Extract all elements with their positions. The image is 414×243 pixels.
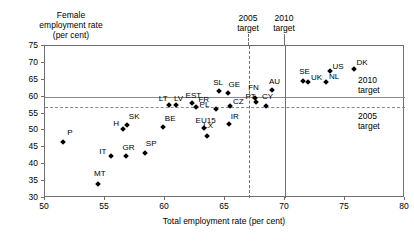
hline-2005-label-line1: 2005 bbox=[358, 111, 377, 121]
data-point-label-BE: BE bbox=[165, 115, 176, 123]
y-tick-label-45: 45 bbox=[22, 141, 38, 151]
hline-2010-label-line1: 2010 bbox=[358, 75, 377, 85]
y-axis-title-line1: Female bbox=[36, 10, 106, 21]
x-axis-title: Total employment rate (per cent) bbox=[144, 216, 304, 226]
data-point-label-GE: GE bbox=[229, 81, 241, 89]
vline-2005-label-line1: 2005 bbox=[231, 13, 265, 23]
data-point-label-NL: NL bbox=[329, 73, 339, 81]
y-tick-label-55: 55 bbox=[22, 108, 38, 118]
x-tick-label-55: 55 bbox=[94, 201, 114, 211]
data-point-label-UK: UK bbox=[311, 74, 322, 82]
x-tick-mark-75 bbox=[344, 197, 345, 200]
reference-line-v-67-extension bbox=[248, 34, 249, 45]
x-tick-label-70: 70 bbox=[274, 201, 294, 211]
data-point-label-SL: SL bbox=[213, 79, 223, 87]
reference-line-v-67 bbox=[249, 46, 250, 198]
y-tick-label-70: 70 bbox=[22, 57, 38, 67]
data-point-label-LX: LX bbox=[203, 122, 213, 130]
y-tick-mark-60 bbox=[41, 96, 44, 97]
data-point-label-P: P bbox=[67, 129, 72, 137]
vline-2010-label-line1: 2010 bbox=[267, 13, 301, 23]
y-tick-label-75: 75 bbox=[22, 40, 38, 50]
x-tick-mark-55 bbox=[104, 197, 105, 200]
data-point-label-DK: DK bbox=[357, 59, 368, 67]
y-tick-mark-55 bbox=[41, 113, 44, 114]
x-tick-mark-70 bbox=[284, 197, 285, 200]
y-tick-label-35: 35 bbox=[22, 175, 38, 185]
y-tick-mark-70 bbox=[41, 62, 44, 63]
data-point-label-IR: IR bbox=[231, 113, 239, 121]
vline-2010-label-line2: target bbox=[267, 23, 301, 33]
y-tick-mark-50 bbox=[41, 129, 44, 130]
data-point-label-GR: GR bbox=[123, 144, 135, 152]
y-axis-title-line2: employment rate bbox=[19, 20, 123, 31]
y-tick-label-50: 50 bbox=[22, 124, 38, 134]
data-point-label-MT: MT bbox=[94, 170, 106, 178]
x-tick-mark-65 bbox=[224, 197, 225, 200]
data-point-label-LT: LT bbox=[159, 95, 168, 103]
data-point-label-SE: SE bbox=[299, 68, 310, 76]
reference-line-v-70 bbox=[285, 46, 286, 198]
y-tick-label-40: 40 bbox=[22, 158, 38, 168]
hline-2005-label-line2: target bbox=[358, 121, 380, 131]
data-point-label-SP: SP bbox=[146, 140, 157, 148]
hline-2010-label-line2: target bbox=[358, 85, 380, 95]
data-point-label-IT: IT bbox=[99, 148, 106, 156]
x-tick-label-65: 65 bbox=[214, 201, 234, 211]
data-point-label-H: H bbox=[113, 120, 119, 128]
y-tick-mark-45 bbox=[41, 146, 44, 147]
data-point-label-AU: AU bbox=[269, 78, 280, 86]
data-point-label-SK: SK bbox=[129, 113, 140, 121]
data-point-label-US: US bbox=[333, 63, 344, 71]
x-tick-mark-60 bbox=[164, 197, 165, 200]
vline-2005-label-line2: target bbox=[231, 23, 265, 33]
data-point-label-PT: PT bbox=[245, 93, 255, 101]
y-tick-mark-40 bbox=[41, 163, 44, 164]
data-point-label-CZ: CZ bbox=[233, 98, 244, 106]
x-tick-label-50: 50 bbox=[34, 201, 54, 211]
y-tick-mark-75 bbox=[41, 45, 44, 46]
data-point-label-LV: LV bbox=[174, 95, 183, 103]
reference-line-h-60 bbox=[45, 97, 405, 98]
x-tick-label-75: 75 bbox=[334, 201, 354, 211]
x-tick-label-80: 80 bbox=[394, 201, 414, 211]
data-point-label-PL: PL bbox=[200, 101, 210, 109]
x-tick-mark-50 bbox=[44, 197, 45, 200]
data-point-label-CY: CY bbox=[262, 93, 273, 101]
y-tick-mark-35 bbox=[41, 180, 44, 181]
y-tick-mark-65 bbox=[41, 79, 44, 80]
reference-line-v-70-extension bbox=[284, 34, 285, 45]
x-tick-label-60: 60 bbox=[154, 201, 174, 211]
y-axis-title-line3: (per cent) bbox=[36, 30, 106, 41]
reference-line-h-57 bbox=[45, 107, 405, 108]
x-tick-mark-80 bbox=[404, 197, 405, 200]
chart-root: Female employment rate (per cent) 303540… bbox=[0, 0, 414, 243]
y-tick-label-65: 65 bbox=[22, 74, 38, 84]
y-tick-label-60: 60 bbox=[22, 91, 38, 101]
data-point-label-FN: FN bbox=[248, 84, 259, 92]
